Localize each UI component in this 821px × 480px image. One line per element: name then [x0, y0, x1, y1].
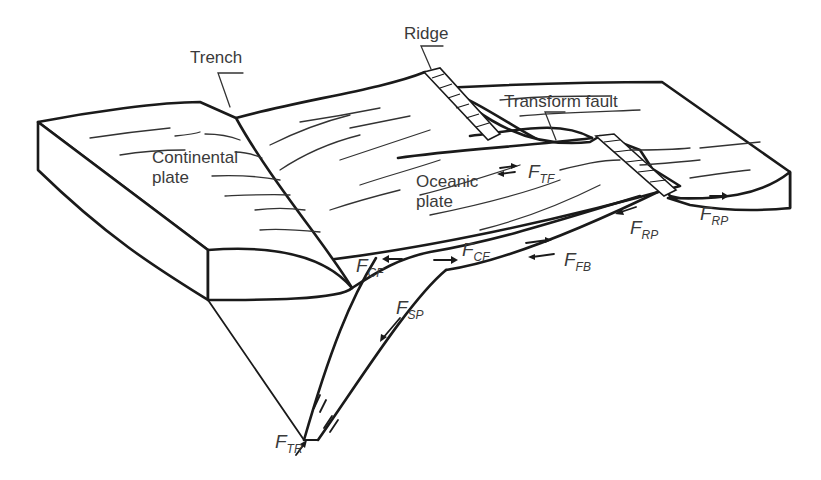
trench-leader-line: [218, 73, 243, 107]
plate-tectonics-diagram: Trench Ridge Transform fault Continental…: [0, 0, 821, 480]
trench-label: Trench: [190, 48, 242, 67]
force-label-continental-friction-right: FCF: [462, 240, 490, 267]
force-label-ridge-push-right: FRP: [700, 204, 728, 231]
force-label-continental-friction-left: FCF: [356, 256, 384, 283]
oceanic-plate-label-line2: plate: [416, 192, 453, 211]
mantle-wedge-line: [208, 300, 304, 440]
continental-plate-label-line1: Continental: [152, 148, 238, 167]
continental-plate-label-line2: plate: [152, 168, 189, 187]
force-label-slab-pull: FSP: [396, 298, 424, 325]
oceanic-plate-label-line1: Oceanic: [416, 172, 478, 191]
ridge-label: Ridge: [404, 24, 448, 43]
force-label-frictional-base: FFB: [564, 250, 591, 277]
transform-fault-label: Transform fault: [504, 92, 618, 111]
slab-descending-right: [318, 270, 446, 440]
ridge-leader-line: [421, 46, 443, 69]
force-label-trench-resistance: FTR: [275, 432, 303, 459]
force-label-transform-fault: FTF: [528, 162, 554, 189]
diagram-drawing: [0, 0, 821, 480]
force-label-ridge-push-upper: FRP: [630, 218, 658, 245]
